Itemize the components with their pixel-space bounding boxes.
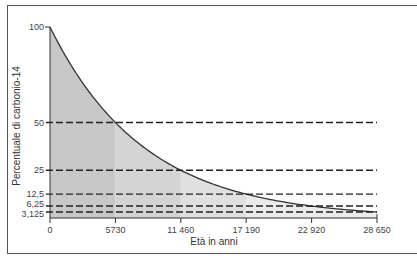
y-tick-label: 100 <box>29 22 44 32</box>
y-axis-ticks: 100502512,56,253,125 <box>21 22 50 219</box>
x-tick-label: 22 920 <box>298 225 326 235</box>
y-axis-title: Percentuale di carbonio-14 <box>11 66 22 186</box>
y-tick-label: 6,25 <box>26 199 44 209</box>
y-tick-label: 3,125 <box>21 209 44 219</box>
y-tick-label: 50 <box>34 118 44 128</box>
x-axis-title: Età in anni <box>190 236 237 247</box>
y-tick-label: 12,5 <box>26 189 44 199</box>
x-tick-label: 11 460 <box>167 225 194 235</box>
x-tick-label: 28 650 <box>363 225 391 235</box>
x-tick-label: 0 <box>47 225 52 235</box>
x-tick-label: 5730 <box>105 225 125 235</box>
x-tick-label: 17 190 <box>232 225 260 235</box>
y-tick-label: 25 <box>34 165 44 175</box>
